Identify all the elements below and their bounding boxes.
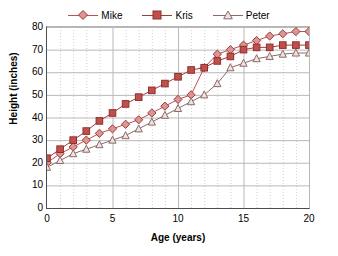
data-point	[253, 44, 260, 51]
data-point	[95, 129, 103, 137]
data-point	[279, 30, 287, 38]
plot-area	[47, 27, 309, 208]
legend-swatch-peter	[213, 9, 243, 21]
data-point	[57, 146, 64, 153]
data-point	[82, 136, 90, 144]
data-point	[226, 46, 234, 54]
data-point	[305, 27, 309, 35]
y-tick-label: 60	[19, 67, 43, 77]
data-point	[201, 91, 208, 98]
legend-line-mike	[68, 15, 98, 16]
data-point	[109, 110, 116, 117]
legend-line-kris	[142, 15, 172, 16]
data-point	[214, 58, 221, 65]
data-point	[122, 120, 130, 128]
data-point	[292, 27, 300, 35]
data-point	[148, 109, 156, 117]
plot-frame	[46, 26, 310, 209]
data-point	[161, 102, 169, 110]
data-point	[57, 157, 64, 164]
data-point	[96, 118, 103, 125]
diamond-marker-icon	[78, 10, 88, 20]
data-point	[83, 128, 90, 135]
legend-item-mike: Mike	[68, 9, 122, 21]
data-point	[161, 111, 168, 118]
y-tick-label: 30	[19, 135, 43, 145]
data-point	[162, 80, 169, 87]
data-point	[306, 42, 309, 49]
x-axis-ticks: 05101520	[46, 214, 310, 226]
data-point	[266, 44, 273, 51]
data-point	[240, 46, 247, 53]
legend-label-mike: Mike	[101, 10, 122, 21]
x-tick-label: 0	[35, 214, 59, 224]
x-tick-label: 20	[297, 214, 321, 224]
x-tick-label: 5	[101, 214, 125, 224]
data-point	[122, 132, 129, 139]
data-point	[122, 101, 129, 108]
y-tick-label: 20	[19, 158, 43, 168]
y-axis-ticks: 01020304050607080	[16, 26, 43, 209]
y-tick-label: 10	[19, 180, 43, 190]
y-tick-label: 40	[19, 113, 43, 123]
data-point	[188, 98, 195, 105]
data-point	[201, 64, 208, 71]
legend-swatch-mike	[68, 9, 98, 21]
legend-line-peter	[213, 15, 243, 16]
y-tick-label: 50	[19, 90, 43, 100]
x-tick-label: 15	[232, 214, 256, 224]
legend-label-peter: Peter	[246, 10, 270, 21]
data-point	[148, 118, 155, 125]
legend-label-kris: Kris	[175, 10, 192, 21]
y-tick-label: 0	[19, 203, 43, 213]
line-chart: Mike Kris Peter	[0, 0, 338, 256]
triangle-marker-icon	[223, 10, 233, 20]
data-point	[135, 116, 143, 124]
y-axis-title: Height (inches)	[8, 29, 19, 149]
data-point	[188, 67, 195, 74]
data-point	[135, 94, 142, 101]
data-point	[174, 95, 182, 103]
data-point	[149, 87, 156, 94]
legend-item-peter: Peter	[213, 9, 270, 21]
data-point	[70, 137, 77, 144]
data-point	[227, 53, 234, 60]
data-point	[108, 125, 116, 133]
chart-legend: Mike Kris Peter	[0, 6, 338, 24]
legend-item-kris: Kris	[142, 9, 192, 21]
y-tick-label: 70	[19, 45, 43, 55]
legend-swatch-kris	[142, 9, 172, 21]
data-point	[135, 125, 142, 132]
data-point	[266, 32, 274, 40]
data-point	[47, 155, 50, 162]
x-axis-title: Age (years)	[46, 232, 310, 243]
data-point	[253, 36, 261, 44]
y-axis-title-wrap: Height (inches)	[0, 0, 1, 1]
data-point	[175, 73, 182, 80]
y-tick-label: 80	[19, 22, 43, 32]
square-marker-icon	[152, 10, 162, 20]
x-tick-label: 10	[166, 214, 190, 224]
data-point	[280, 42, 287, 49]
data-point	[293, 42, 300, 49]
data-point	[174, 105, 181, 112]
